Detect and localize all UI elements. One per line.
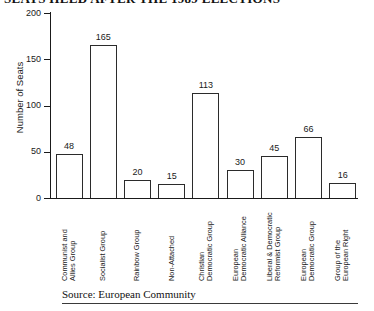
bar-value-label-8: 16 bbox=[321, 171, 364, 180]
category-label-8: Group of the European Right bbox=[334, 203, 351, 281]
y-tick-150 bbox=[44, 59, 51, 60]
bar-8 bbox=[329, 183, 356, 198]
bar-1 bbox=[90, 45, 117, 198]
y-axis-title: Number of Seats bbox=[14, 38, 25, 158]
bar-5 bbox=[227, 170, 254, 198]
category-label-1: Socialist Group bbox=[99, 203, 107, 281]
category-label-7: European Democratic Group bbox=[300, 203, 317, 281]
y-tick-100 bbox=[44, 106, 51, 107]
y-tick-0 bbox=[44, 198, 51, 199]
y-tick-label-200: 200 bbox=[26, 9, 41, 18]
y-tick-label-150: 150 bbox=[26, 55, 41, 64]
bar-value-label-1: 165 bbox=[82, 33, 125, 42]
bar-2 bbox=[124, 180, 151, 199]
category-label-2: Rainbow Group bbox=[133, 203, 141, 281]
bar-chart: 050100150200 Number of Seats 48165201511… bbox=[0, 0, 374, 311]
source-note: Source: European Community bbox=[62, 288, 196, 300]
bar-0 bbox=[56, 154, 83, 198]
category-label-4: Christian Democratic Group bbox=[198, 203, 215, 281]
bar-7 bbox=[295, 137, 322, 198]
source-divider bbox=[62, 303, 358, 304]
category-label-6: Liberal & Democratic Reformist Group bbox=[266, 203, 283, 281]
category-label-5: European Democratic Alliance bbox=[232, 203, 249, 281]
bar-value-label-4: 113 bbox=[184, 81, 227, 90]
bar-4 bbox=[192, 93, 219, 198]
bar-value-label-6: 45 bbox=[253, 144, 296, 153]
y-tick-label-50: 50 bbox=[31, 147, 41, 156]
bar-6 bbox=[261, 156, 288, 198]
bar-value-label-7: 66 bbox=[287, 125, 330, 134]
y-tick-label-0: 0 bbox=[36, 194, 41, 203]
bar-3 bbox=[158, 184, 185, 198]
y-tick-label-100: 100 bbox=[26, 101, 41, 110]
bar-value-label-0: 48 bbox=[48, 142, 91, 151]
y-tick-50 bbox=[44, 152, 51, 153]
y-tick-200 bbox=[44, 13, 51, 14]
bar-value-label-5: 30 bbox=[219, 158, 262, 167]
category-label-0: Communist and Allies Group bbox=[61, 203, 78, 281]
x-axis-line bbox=[50, 198, 358, 199]
bar-value-label-3: 15 bbox=[150, 172, 193, 181]
category-label-3: Non-Attached bbox=[168, 203, 176, 281]
